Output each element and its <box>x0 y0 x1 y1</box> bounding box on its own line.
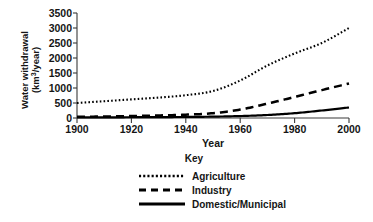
x-tick-label: 1960 <box>229 123 253 135</box>
legend-title: Key <box>185 153 204 164</box>
y-tick-label: 2000 <box>49 52 73 64</box>
legend-label-agriculture: Agriculture <box>192 171 246 182</box>
y-tick-label: 3500 <box>49 7 73 19</box>
y-axis-unit-prefix: (km <box>30 76 41 93</box>
legend-label-domestic-municipal: Domestic/Municipal <box>192 199 286 210</box>
x-tick-label: 2000 <box>337 123 361 135</box>
x-tick-label: 1900 <box>65 123 89 135</box>
y-axis-title-line2: (km3/year) <box>30 47 41 93</box>
y-tick-label: 2500 <box>49 37 73 49</box>
x-tick-label: 1940 <box>174 123 198 135</box>
y-tick-label: 500 <box>54 97 72 109</box>
y-tick-label: 0 <box>66 112 72 124</box>
water-withdrawal-line-chart: Water withdrawal (km3/year) 3500 3000 25… <box>0 0 373 222</box>
x-axis-title: Year <box>202 137 224 149</box>
y-tick-label: 1500 <box>49 67 73 79</box>
y-axis-unit-suffix: /year) <box>30 47 41 72</box>
chart-figure: Water withdrawal (km3/year) 3500 3000 25… <box>0 0 373 222</box>
legend-label-industry: Industry <box>192 185 232 196</box>
x-tick-label: 1980 <box>283 123 307 135</box>
y-axis-title-line1: Water withdrawal <box>19 31 30 109</box>
y-tick-label: 3000 <box>49 22 73 34</box>
x-tick-label: 1920 <box>120 123 144 135</box>
y-tick-label: 1000 <box>49 82 73 94</box>
